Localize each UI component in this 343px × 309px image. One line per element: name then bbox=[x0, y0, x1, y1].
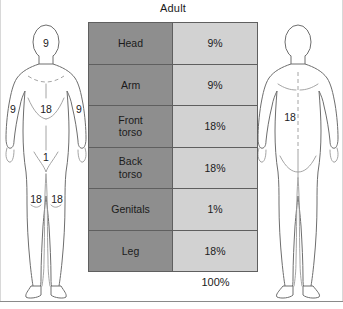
table-cell-percent: 1% bbox=[173, 189, 257, 230]
table-cell-region: Back torso bbox=[89, 148, 173, 189]
table-total-percent: 100% bbox=[173, 276, 258, 288]
table-cell-region: Genitals bbox=[89, 189, 173, 230]
table-cell-percent: 9% bbox=[173, 65, 257, 106]
anterior-label-front-torso: 18 bbox=[40, 103, 52, 115]
table-row: Back torso 18% bbox=[89, 148, 257, 190]
frame-bottom-rule bbox=[0, 301, 343, 302]
table-row: Arm 9% bbox=[89, 65, 257, 107]
body-surface-area-table: Head 9% Arm 9% Front torso 18% Back tors… bbox=[88, 22, 258, 272]
table-cell-region: Leg bbox=[89, 231, 173, 272]
anterior-label-arm-left: 9 bbox=[10, 103, 16, 115]
table-row: Front torso 18% bbox=[89, 106, 257, 148]
posterior-left-foot bbox=[276, 286, 293, 298]
anterior-right-hand bbox=[78, 148, 86, 162]
table-cell-region: Head bbox=[89, 23, 173, 64]
table-row: Head 9% bbox=[89, 23, 257, 65]
posterior-body-diagram: 18 bbox=[252, 0, 343, 300]
anterior-label-head: 9 bbox=[43, 37, 49, 49]
anterior-label-leg-left: 18 bbox=[30, 193, 42, 205]
anterior-left-hand bbox=[6, 148, 14, 162]
anterior-label-leg-right: 18 bbox=[51, 193, 63, 205]
anterior-left-foot bbox=[26, 286, 41, 298]
anterior-body-diagram: 9 9 9 18 1 18 18 bbox=[0, 0, 92, 300]
table-cell-region: Arm bbox=[89, 65, 173, 106]
posterior-head-outline bbox=[285, 25, 311, 59]
anterior-label-arm-right: 9 bbox=[76, 103, 82, 115]
table-cell-region: Front torso bbox=[89, 106, 173, 147]
posterior-left-hand bbox=[258, 148, 266, 162]
posterior-right-hand bbox=[330, 148, 338, 162]
anterior-label-genitals: 1 bbox=[43, 151, 49, 163]
table-row: Leg 18% bbox=[89, 231, 257, 272]
rule-of-nines-diagram: 9 9 9 18 1 18 18 18 Adult Head 9% bbox=[0, 0, 343, 309]
anterior-right-foot bbox=[51, 286, 66, 298]
table-row: Genitals 1% bbox=[89, 189, 257, 231]
posterior-right-foot bbox=[303, 286, 320, 298]
posterior-label-back-torso: 18 bbox=[284, 111, 296, 123]
table-cell-percent: 9% bbox=[173, 23, 257, 64]
page-title: Adult bbox=[88, 2, 258, 14]
table-cell-percent: 18% bbox=[173, 231, 257, 272]
table-cell-percent: 18% bbox=[173, 106, 257, 147]
table-cell-percent: 18% bbox=[173, 148, 257, 189]
